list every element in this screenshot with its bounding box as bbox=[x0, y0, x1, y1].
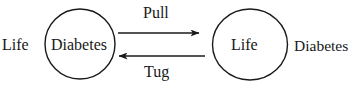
edge-label-tug: Tug bbox=[144, 64, 169, 80]
outside-label-right: Diabetes bbox=[294, 38, 348, 54]
node-label-left: Diabetes bbox=[51, 37, 107, 53]
outside-label-left: Life bbox=[2, 37, 29, 53]
node-label-right: Life bbox=[231, 37, 258, 53]
edge-label-pull: Pull bbox=[143, 5, 169, 21]
diagram-canvas: Life Diabetes Pull Tug Life Diabetes bbox=[0, 0, 360, 92]
